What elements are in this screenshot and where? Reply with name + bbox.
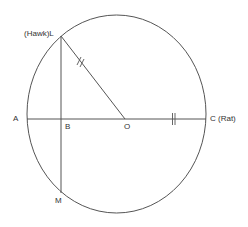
label-M: M bbox=[55, 197, 62, 205]
radius-LO bbox=[61, 36, 125, 119]
label-L: (Hawk)L bbox=[24, 30, 54, 38]
circle bbox=[27, 15, 206, 213]
label-A: A bbox=[13, 115, 18, 123]
label-C: C (Rat) bbox=[210, 115, 236, 123]
label-B: B bbox=[65, 123, 70, 131]
label-O: O bbox=[124, 123, 130, 131]
